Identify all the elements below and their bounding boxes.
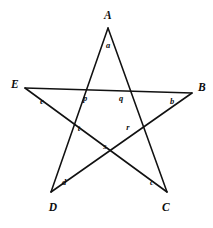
vertex-label-C: C — [162, 202, 170, 214]
vertex-label-A: A — [104, 10, 112, 22]
node-s: s — [103, 142, 106, 151]
edge-C-E — [25, 88, 167, 192]
angle-a: a — [106, 41, 110, 50]
pentagram-canvas — [0, 0, 213, 228]
edge-D-A — [51, 28, 108, 192]
angle-d: d — [62, 178, 66, 187]
vertex-label-B: B — [198, 82, 206, 94]
pentagram-figure: ABCDEabcdepqrst — [0, 0, 213, 228]
vertex-label-D: D — [49, 202, 58, 214]
vertex-label-E: E — [11, 79, 19, 91]
edge-E-B — [25, 88, 192, 93]
angle-c: c — [150, 178, 154, 187]
star-edge-group — [25, 28, 192, 192]
node-p: p — [83, 94, 87, 103]
edge-A-C — [108, 28, 167, 192]
node-q: q — [119, 94, 123, 103]
edge-B-D — [51, 93, 192, 192]
node-r: r — [126, 123, 129, 132]
angle-b: b — [170, 97, 174, 106]
node-t: t — [78, 124, 80, 133]
angle-e: e — [40, 97, 44, 106]
